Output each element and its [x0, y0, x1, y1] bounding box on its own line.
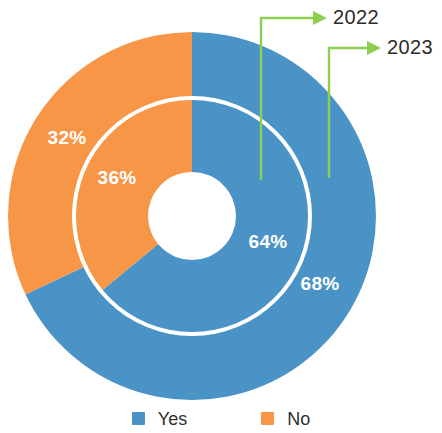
legend-swatch-yes-icon: [132, 412, 145, 425]
slice-label-outer-no: 32%: [48, 127, 87, 148]
callout-arrow-2022-icon: [313, 11, 327, 25]
donut-chart: 32% 36% 64% 68% 2022 2023 Yes No: [0, 0, 442, 433]
inner-ring-2022: [74, 98, 310, 334]
legend-label-yes: Yes: [158, 410, 187, 428]
outer-ring-2023: [6, 30, 378, 402]
legend-swatch-no-icon: [261, 412, 274, 425]
slice-label-inner-yes: 64%: [249, 231, 288, 252]
slice-label-outer-yes: 68%: [301, 273, 340, 294]
callout-label-2022: 2022: [333, 6, 379, 28]
donut-chart-svg: 32% 36% 64% 68% 2022 2023: [0, 0, 442, 433]
callout-arrow-2023-icon: [367, 41, 381, 55]
chart-legend: Yes No: [0, 404, 442, 433]
legend-item-yes[interactable]: Yes: [132, 410, 187, 428]
legend-item-no[interactable]: No: [261, 410, 310, 428]
slice-label-inner-no: 36%: [98, 167, 137, 188]
legend-label-no: No: [287, 410, 310, 428]
callout-label-2023: 2023: [387, 36, 433, 58]
